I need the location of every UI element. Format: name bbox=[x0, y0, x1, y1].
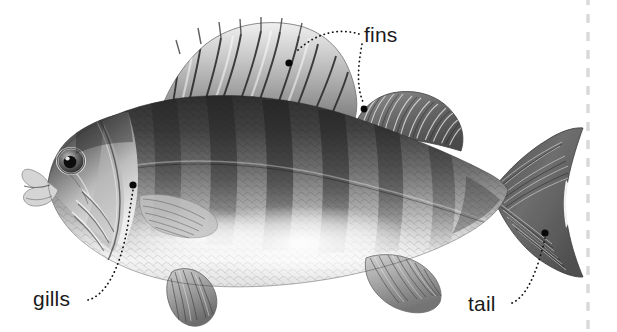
fins-anchor-soft-dorsal bbox=[361, 106, 368, 113]
callout-fins[interactable]: fins bbox=[285, 23, 397, 112]
fins-leader-to-soft-dorsal bbox=[359, 44, 365, 104]
tail-label: tail bbox=[468, 292, 496, 315]
gills-anchor-gill-cover bbox=[129, 181, 136, 188]
fish-anatomy-figure: fins gills tail bbox=[0, 0, 617, 332]
fins-leader-to-spiny-dorsal bbox=[296, 31, 359, 52]
callout-layer: fins gills tail bbox=[0, 0, 617, 332]
callout-tail[interactable]: tail bbox=[468, 229, 549, 315]
callout-gills[interactable]: gills bbox=[33, 181, 137, 310]
fins-anchor-spiny-dorsal bbox=[285, 59, 292, 66]
tail-leader bbox=[512, 238, 545, 303]
gills-label: gills bbox=[33, 287, 70, 310]
tail-anchor-caudal-fin bbox=[541, 229, 548, 236]
fins-label: fins bbox=[364, 23, 397, 46]
gills-leader bbox=[88, 190, 133, 300]
